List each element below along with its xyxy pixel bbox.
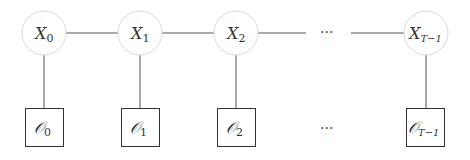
node-subscript: T−1 <box>420 33 441 44</box>
ellipsis-top: ··· <box>320 24 333 40</box>
hidden-node-xT: XT−1 <box>404 11 448 55</box>
node-label: X <box>407 24 421 43</box>
node-label: X <box>129 24 143 43</box>
observed-node-o0: 𝒪0 <box>26 109 64 147</box>
ellipsis-bottom: ··· <box>320 120 333 136</box>
node-subscript: T−1 <box>418 127 439 138</box>
node-label: X <box>33 24 47 43</box>
observed-node-o1: 𝒪1 <box>122 109 160 147</box>
node-subscript: 2 <box>238 32 245 45</box>
observed-node-oT: 𝒪T−1 <box>407 109 445 147</box>
node-subscript: 1 <box>142 32 149 45</box>
node-subscript: 1 <box>140 126 147 139</box>
hidden-node-x1: X1 <box>118 11 162 55</box>
node-label: X <box>225 24 239 43</box>
observed-node-o2: 𝒪2 <box>218 109 256 147</box>
hmm-diagram: X0 X1 X2 XT−1 ··· 𝒪0 𝒪1 𝒪2 𝒪T−1 ··· <box>0 0 470 160</box>
node-subscript: 2 <box>236 126 243 139</box>
node-subscript: 0 <box>46 32 53 45</box>
hidden-node-x2: X2 <box>214 11 258 55</box>
node-subscript: 0 <box>44 126 51 139</box>
hidden-node-x0: X0 <box>22 11 66 55</box>
